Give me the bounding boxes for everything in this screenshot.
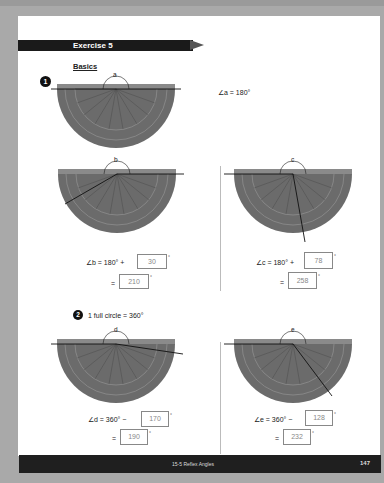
problem-number-badge: 2 [73,310,83,320]
equals-sign: = [275,435,279,442]
banner-arrow-icon [190,40,204,50]
angle-c-addend-box[interactable]: 78 [304,252,333,269]
textbook-page: Exercise 5 Basics 1 a ∠a = 180° b ∠b = 1… [18,16,380,456]
problem-number-badge: 1 [40,76,51,87]
angle-b-equation: ∠b = 180° + [86,259,124,267]
protractor-angle-b [50,164,182,236]
angle-e-subtrahend-box[interactable]: 128 [305,410,333,426]
angle-c-label: c [291,156,294,163]
degree-symbol: ° [149,430,151,436]
angle-a-statement: ∠a = 180° [218,89,250,97]
angle-d-result-box[interactable]: 190 [120,429,148,445]
degree-symbol: ° [334,253,336,259]
angle-d-equation: ∠d = 360° − [88,416,126,424]
page-number: 147 [360,460,370,466]
protractor-angle-a [51,79,181,151]
degree-symbol: ° [312,430,314,436]
protractor-angle-c [228,164,360,249]
full-circle-statement: 1 full circle = 360° [88,312,144,319]
degree-symbol: ° [318,273,320,279]
degree-symbol: ° [334,411,336,417]
equals-sign: = [112,435,116,442]
degree-symbol: ° [170,412,172,418]
angle-a-label: a [113,71,117,78]
angle-d-label: d [114,326,118,333]
angle-e-result-box[interactable]: 232 [283,429,311,445]
lesson-title: 15-5 Reflex Angles [172,461,214,467]
angle-b-result-box[interactable]: 210 [119,274,149,289]
angle-c-result-box[interactable]: 258 [288,272,317,289]
angle-e-equation: ∠e = 360° − [254,416,292,424]
scanner-top-edge [0,0,384,6]
column-divider [220,166,221,291]
protractor-angle-e [228,334,360,406]
equals-sign: = [111,280,115,287]
angle-b-addend-box[interactable]: 30 [137,254,167,269]
section-heading: Basics [73,62,97,71]
exercise-title: Exercise 5 [73,40,113,51]
column-divider [220,342,221,454]
angle-b-label: b [114,156,118,163]
angle-c-equation: ∠c = 180° + [256,259,294,267]
protractor-angle-d [51,334,186,406]
angle-e-label: e [291,326,295,333]
angle-d-subtrahend-box[interactable]: 170 [141,411,169,427]
degree-symbol: ° [150,274,152,280]
equals-sign: = [280,279,284,286]
degree-symbol: ° [168,254,170,260]
